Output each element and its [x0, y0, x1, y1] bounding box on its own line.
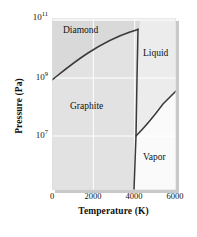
y-tick-1e9: 109 — [36, 73, 48, 82]
region-label-vapor: Vapor — [143, 152, 166, 162]
x-tick-4000: 4000 — [120, 192, 148, 201]
x-tick-2000: 2000 — [79, 192, 107, 201]
region-label-diamond: Diamond — [63, 25, 98, 35]
y-tick-1e11: 1011 — [33, 13, 48, 22]
region-label-liquid: Liquid — [143, 48, 168, 58]
region-label-graphite: Graphite — [70, 101, 103, 111]
x-tick-6000: 6000 — [161, 192, 189, 201]
x-axis-title: Temperature (K) — [36, 206, 191, 216]
phase-diagram-figure: 1011 109 107 0 2000 4000 6000 Temperatur… — [0, 0, 197, 237]
y-axis-title: Pressure (Pa) — [14, 36, 24, 176]
x-tick-0: 0 — [42, 192, 62, 201]
y-axis-title-wrapper: Pressure (Pa) — [14, 36, 28, 176]
y-tick-1e7: 107 — [36, 131, 48, 140]
